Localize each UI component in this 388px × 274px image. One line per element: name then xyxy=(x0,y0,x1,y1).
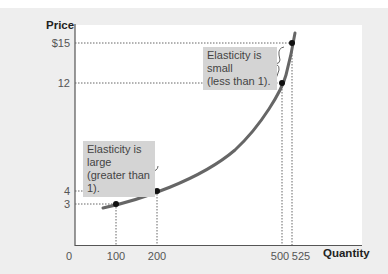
x-tick-200: 200 xyxy=(142,250,172,262)
y-tick-15: $15 xyxy=(30,37,70,49)
x-axis-label: Quantity xyxy=(323,247,370,259)
point-100-3 xyxy=(113,201,119,207)
note-elasticity-large: Elasticity is large (greater than 1). xyxy=(83,141,155,197)
point-525-15 xyxy=(289,40,295,46)
y-tick-4: 4 xyxy=(30,185,70,197)
y-tick-12: 12 xyxy=(30,77,70,89)
y-tick-3: 3 xyxy=(30,198,70,210)
x-tick-525: 525 xyxy=(286,250,316,262)
x-tick-0: 0 xyxy=(54,250,84,262)
note-large-line2: (greater than 1). xyxy=(87,169,151,195)
note-elasticity-small: Elasticity is small (less than 1). xyxy=(203,47,277,90)
y-axis-label: Price xyxy=(46,19,74,31)
x-tick-100: 100 xyxy=(101,250,131,262)
point-500-12 xyxy=(279,80,285,86)
note-small-line1: Elasticity is small xyxy=(207,49,273,75)
note-large-line1: Elasticity is large xyxy=(87,143,151,169)
note-small-line2: (less than 1). xyxy=(207,75,273,88)
